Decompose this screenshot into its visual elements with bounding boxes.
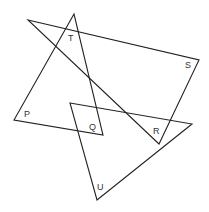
label-t: T <box>68 33 74 43</box>
geometry-diagram: T S P Q R U <box>0 0 209 212</box>
label-s: S <box>185 60 191 70</box>
diagram-svg: T S P Q R U <box>0 0 209 212</box>
label-u: U <box>97 182 104 192</box>
triangle-tsr <box>28 20 199 144</box>
label-p: P <box>24 109 30 119</box>
label-q: Q <box>89 122 96 132</box>
label-r: R <box>153 126 160 136</box>
